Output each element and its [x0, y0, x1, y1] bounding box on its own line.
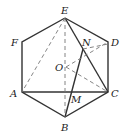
segment-EA — [22, 18, 65, 92]
hexagon-diagram: E F D A C B O N M — [0, 0, 128, 137]
label-B: B — [60, 122, 68, 133]
label-O: O — [55, 62, 63, 73]
label-A: A — [9, 88, 17, 99]
label-F: F — [10, 37, 19, 48]
label-D: D — [110, 37, 119, 48]
label-M: M — [70, 94, 82, 105]
segment-BN — [65, 49, 83, 117]
label-C: C — [111, 88, 119, 99]
label-E: E — [60, 5, 69, 16]
label-N: N — [81, 37, 92, 48]
dashed-edges — [22, 18, 108, 117]
